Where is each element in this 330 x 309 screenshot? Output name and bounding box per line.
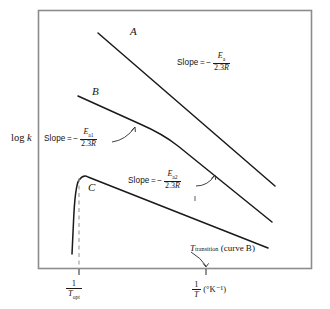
denominator-number-a: 2.3 [214, 63, 224, 72]
x-axis-fraction: 1 T [192, 280, 201, 299]
curve-c-label: C [88, 182, 95, 193]
t-opt-subscript: opt [73, 294, 80, 300]
slope-equals-a: = [200, 58, 205, 67]
denominator-number-b2: 2.3 [165, 181, 175, 190]
transition-annotation: Ttransition (curve B) [190, 243, 255, 253]
slope-numerator-b2: Ea2 [166, 170, 178, 181]
energy-subscript-a: a [223, 56, 225, 62]
curve-a-label: A [130, 26, 137, 37]
slope-equals-b1: = [67, 134, 72, 143]
slope-fraction-b2: Ea2 2.3R [164, 170, 181, 191]
plot-canvas [0, 0, 330, 309]
slope-numerator-b1: Ea1 [82, 128, 94, 139]
slope-annotation-b1: Slope = − Ea1 2.3R [44, 128, 97, 149]
gas-constant-b2: R [175, 181, 180, 190]
y-axis-label: log k [11, 133, 32, 144]
x-axis-denominator: T [192, 290, 201, 299]
x-tick-t-opt: 1 Topt [66, 279, 82, 300]
slope-word-b1: Slope [44, 134, 65, 143]
slope-minus-b1: − [73, 134, 78, 143]
slope-numerator-a: Ea [217, 52, 226, 63]
slope-annotation-b2: Slope = − Ea2 2.3R [128, 170, 181, 191]
energy-subscript-index-b1: 1 [91, 132, 94, 138]
transition-curve-ref: (curve B) [221, 243, 255, 253]
slope-fraction-a: Ea 2.3R [213, 52, 230, 73]
slope-equals-b2: = [151, 176, 156, 185]
t-opt-denominator: Topt [66, 289, 82, 301]
slope-denominator-b2: 2.3R [164, 182, 181, 191]
slope-word-a: Slope [177, 58, 198, 67]
y-axis-label-prefix: log [11, 132, 24, 143]
slope-word-b2: Slope [128, 176, 149, 185]
denominator-number-b1: 2.3 [81, 139, 91, 148]
slope-fraction-b1: Ea1 2.3R [80, 128, 97, 149]
y-axis-label-symbol: k [27, 132, 32, 143]
arrhenius-plot-figure: log k A B C Slope = − Ea 2.3R Slope = − … [0, 0, 330, 309]
slope-minus-b2: − [157, 176, 162, 185]
energy-subscript-index-b2: 2 [175, 174, 178, 180]
slope-denominator-a: 2.3R [213, 64, 230, 73]
x-axis-units: (°K⁻¹) [203, 284, 226, 294]
slope-minus-a: − [206, 58, 211, 67]
x-axis-label: 1 T (°K⁻¹) [192, 280, 226, 299]
gas-constant-b1: R [91, 139, 96, 148]
x-axis-numerator: 1 [192, 280, 200, 289]
t-opt-numerator: 1 [70, 279, 78, 288]
curve-b-label: B [92, 86, 99, 97]
gas-constant-a: R [224, 63, 229, 72]
slope-denominator-b1: 2.3R [80, 140, 97, 149]
slope-annotation-a: Slope = − Ea 2.3R [177, 52, 230, 73]
transition-subscript: transition [195, 245, 218, 252]
